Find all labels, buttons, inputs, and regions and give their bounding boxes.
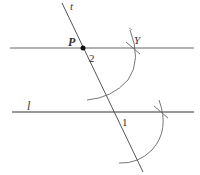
construction-svg xyxy=(0,0,200,175)
upper-construction-arc xyxy=(87,30,136,100)
label-y: Y xyxy=(134,35,140,46)
transversal-t xyxy=(62,3,143,172)
label-angle-1: 1 xyxy=(122,117,128,128)
arc-tick-mark xyxy=(129,28,132,30)
label-l: l xyxy=(27,100,30,112)
point-p xyxy=(81,46,86,51)
lower-construction-arc xyxy=(119,100,163,163)
label-p: P xyxy=(68,36,75,48)
label-t: t xyxy=(70,1,73,12)
label-angle-2: 2 xyxy=(89,53,95,64)
geometry-diagram: t P 2 Y l 1 xyxy=(0,0,200,175)
